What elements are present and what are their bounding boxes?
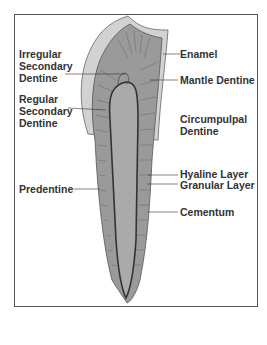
- label-circumpulpal-dentine: Circumpulpal Dentine: [180, 113, 247, 137]
- label-granular-layer: Granular Layer: [180, 179, 255, 191]
- label-enamel: Enamel: [180, 48, 217, 60]
- label-irregular-secondary-dentine: Irregular Secondary Dentine: [19, 48, 73, 84]
- label-cementum: Cementum: [180, 206, 234, 218]
- label-regular-secondary-dentine: Regular Secondary Dentine: [19, 93, 73, 129]
- label-mantle-dentine: Mantle Dentine: [180, 74, 255, 86]
- label-predentine: Predentine: [19, 183, 73, 195]
